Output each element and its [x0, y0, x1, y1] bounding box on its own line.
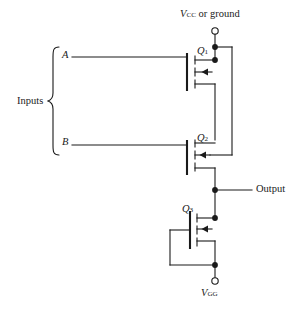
transistor-q1 — [187, 47, 218, 140]
inputs-group-label: Inputs — [17, 96, 43, 107]
transistor-q2 — [187, 140, 215, 190]
output-group — [212, 187, 252, 218]
q2-label-prefix: Q — [197, 132, 205, 143]
rail-label-suffix: or ground — [196, 8, 240, 19]
q3-body-arrow-icon — [202, 226, 209, 233]
q1-label-prefix: Q — [197, 45, 205, 56]
inputs-brace-icon — [47, 46, 61, 156]
q1-label: Q1 — [197, 46, 208, 57]
q1-label-subscript: 1 — [205, 48, 209, 56]
rail-terminal-circle — [212, 28, 218, 34]
q1-body-arrow-icon — [202, 69, 209, 76]
circuit-diagram: VCC or ground VGG Q1 Q2 Q3 A B Inputs Ou… — [0, 0, 305, 311]
vgg-label: VGG — [201, 288, 218, 299]
vgg-group — [212, 262, 218, 284]
schematic-svg — [0, 0, 305, 311]
q3-label: Q3 — [182, 204, 193, 215]
transistor-q3 — [170, 211, 218, 265]
rail-label: VCC or ground — [180, 9, 240, 20]
q2-label-subscript: 2 — [205, 135, 209, 143]
vgg-label-subscript: GG — [207, 290, 217, 298]
vgg-terminal-circle — [212, 278, 218, 284]
output-label: Output — [256, 184, 285, 195]
input-b-label: B — [62, 137, 68, 148]
q3-label-subscript: 3 — [190, 206, 194, 214]
q3-drain-node-dot — [212, 215, 218, 221]
q2-body-arrow-icon — [200, 152, 207, 159]
input-a-label: A — [62, 50, 68, 61]
rail-label-subscript: CC — [186, 11, 196, 19]
q2-label: Q2 — [197, 133, 208, 144]
supply-rail-group — [210, 28, 232, 155]
q3-label-prefix: Q — [182, 203, 190, 214]
